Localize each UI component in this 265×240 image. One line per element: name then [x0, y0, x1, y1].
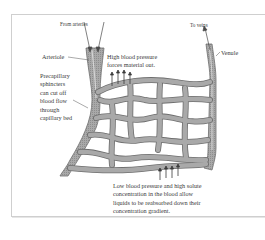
label-arteriole: Arteriole — [42, 53, 64, 61]
label-venule: Venule — [221, 49, 238, 57]
label-low-pressure: Low blood pressure and high solute conce… — [113, 182, 202, 216]
venule-vessel — [204, 44, 216, 170]
label-to-veins: To veins — [190, 21, 208, 29]
label-precapillary-sphincters: Precapillary sphincters can cut off bloo… — [40, 72, 72, 122]
label-from-arteries: From arteries — [60, 20, 88, 28]
label-high-pressure: High blood pressure forces material out. — [107, 53, 157, 70]
